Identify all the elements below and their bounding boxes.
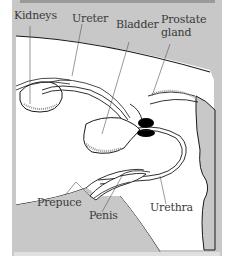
label-prostate-line2: gland xyxy=(161,27,191,39)
label-bladder: Bladder xyxy=(116,19,159,31)
label-prepuce: Prepuce xyxy=(37,197,82,209)
diagram-frame: Kidneys Ureter Bladder Prostate gland Pr… xyxy=(0,0,234,268)
label-kidneys: Kidneys xyxy=(14,10,57,22)
label-urethra: Urethra xyxy=(150,202,193,214)
label-penis: Penis xyxy=(89,210,118,222)
anatomy-illustration xyxy=(0,0,234,268)
label-ureter: Ureter xyxy=(72,13,108,25)
prostate-shape xyxy=(138,118,154,128)
label-prostate-line1: Prostate xyxy=(161,14,206,26)
